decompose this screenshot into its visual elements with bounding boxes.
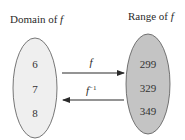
- inverse-function-label: f−1: [86, 84, 97, 96]
- domain-value: 8: [32, 107, 38, 119]
- domain-value: 6: [32, 58, 38, 70]
- domain-value: 7: [32, 83, 38, 95]
- range-value: 329: [140, 82, 157, 94]
- function-mapping-diagram: Domain of f Range of f 6 7 8 299 329 349…: [0, 0, 185, 140]
- range-value: 299: [140, 58, 157, 70]
- domain-title: Domain of f: [10, 13, 65, 25]
- forward-function-label: f: [89, 56, 94, 68]
- range-value: 349: [140, 105, 157, 117]
- range-title: Range of f: [128, 10, 176, 22]
